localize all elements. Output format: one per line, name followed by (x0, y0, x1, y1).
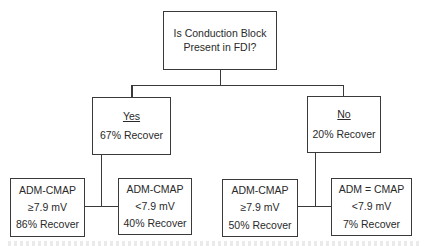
leaf-recovery: 7% Recover (343, 218, 400, 231)
leaf-measure: ADM-CMAP (231, 184, 288, 197)
cutoff-caption-strip (8, 241, 419, 246)
no-branch-node: No 20% Recover (307, 96, 381, 153)
root-question-line-1: Is Conduction Block (174, 27, 267, 40)
connector-no-stem (315, 153, 317, 206)
yes-branch-label: Yes (123, 110, 140, 123)
no-branch-label: No (337, 108, 350, 121)
leaf-measure: ADM-CMAP (19, 184, 76, 197)
leaf-threshold: <7.9 mV (352, 200, 391, 213)
leaf-threshold: ≥7.9 mV (28, 201, 67, 214)
leaf-measure: ADM-CMAP (126, 183, 183, 196)
leaf-threshold: ≥7.9 mV (240, 201, 279, 214)
root-question-line-2: Present in FDI? (184, 41, 257, 54)
leaf-measure: ADM = CMAP (339, 183, 405, 196)
yes-branch-summary: 67% Recover (100, 129, 163, 142)
leaf-no-low-cmap: ADM = CMAP <7.9 mV 7% Recover (331, 178, 412, 236)
root-question-node: Is Conduction Block Present in FDI? (163, 11, 277, 70)
leaf-no-high-cmap: ADM-CMAP ≥7.9 mV 50% Recover (222, 179, 298, 237)
connector-root-stem (220, 70, 222, 85)
leaf-yes-low-cmap: ADM-CMAP <7.9 mV 40% Recover (118, 178, 192, 235)
connector-no-bar (298, 206, 331, 208)
leaf-recovery: 86% Recover (16, 218, 79, 231)
connector-yes-bar (85, 206, 118, 208)
connector-to-yes (131, 85, 133, 98)
no-branch-summary: 20% Recover (312, 128, 375, 141)
leaf-recovery: 50% Recover (228, 219, 291, 232)
connector-root-bar (131, 85, 344, 87)
yes-branch-node: Yes 67% Recover (92, 97, 171, 155)
connector-to-no (343, 85, 345, 97)
leaf-recovery: 40% Recover (123, 217, 186, 230)
leaf-yes-high-cmap: ADM-CMAP ≥7.9 mV 86% Recover (10, 178, 85, 237)
leaf-threshold: <7.9 mV (135, 200, 174, 213)
connector-yes-stem (101, 155, 103, 206)
